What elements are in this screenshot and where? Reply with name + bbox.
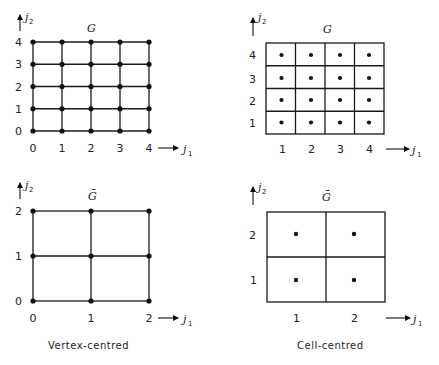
y-tick: 3: [249, 73, 256, 86]
x-axis-subscript: 1: [417, 151, 421, 159]
y-tick: 3: [15, 58, 22, 71]
y-axis-subscript: 2: [29, 186, 33, 194]
grid-title: Ḡ: [88, 189, 97, 203]
panel-vertex-coarse: j 2 Ḡ 2 1 0 0 1 2 j 1 Vertex-centred: [15, 179, 192, 351]
grid-lines: [266, 43, 384, 134]
y-axis-label: j: [255, 181, 262, 194]
grid-lines: [267, 212, 385, 302]
y-axis-subscript: 2: [262, 188, 266, 196]
x-tick: 0: [30, 142, 37, 155]
y-tick: 2: [249, 229, 256, 242]
x-tick: 2: [88, 142, 95, 155]
y-tick: 1: [15, 250, 22, 263]
y-tick: 1: [250, 274, 257, 287]
x-tick: 3: [337, 143, 344, 156]
x-tick: 1: [279, 143, 286, 156]
y-tick: 1: [249, 117, 256, 130]
x-tick: 1: [88, 312, 95, 325]
panel-cell-fine: j 2 G 4 3 2 1 1 2 3 4 j 1: [249, 11, 421, 159]
y-axis-label: j: [22, 179, 29, 192]
y-axis-subscript: 2: [262, 18, 266, 26]
x-axis-label: j: [180, 143, 187, 156]
y-tick: 4: [249, 49, 256, 62]
y-axis-subscript: 2: [29, 18, 33, 26]
x-tick: 2: [308, 143, 315, 156]
caption-vertex-centred: Vertex-centred: [48, 340, 129, 351]
x-axis-subscript: 1: [188, 150, 192, 158]
x-tick: 1: [293, 312, 300, 325]
x-axis-subscript: 1: [188, 320, 192, 328]
y-tick: 2: [249, 95, 256, 108]
x-tick: 2: [351, 312, 358, 325]
y-axis-label: j: [22, 11, 29, 24]
x-tick: 1: [59, 142, 66, 155]
x-axis-subscript: 1: [418, 320, 422, 328]
y-tick: 0: [15, 295, 22, 308]
x-tick: 4: [146, 142, 153, 155]
x-axis-label: j: [410, 313, 417, 326]
y-tick: 0: [15, 125, 22, 138]
panel-vertex-fine: j 2 G 4 3 2 1 0 0: [15, 11, 192, 158]
x-axis-label: j: [409, 144, 416, 157]
y-tick: 2: [15, 205, 22, 218]
y-tick: 2: [15, 81, 22, 94]
y-tick: 4: [15, 36, 22, 49]
x-tick: 3: [117, 142, 124, 155]
x-tick: 4: [366, 143, 373, 156]
caption-cell-centred: Cell-centred: [297, 340, 364, 351]
panel-cell-coarse: j 2 Ḡ 2 1 1 2 j 1 Cell-centred: [249, 181, 422, 351]
grid-title: G: [87, 22, 96, 35]
x-tick: 0: [30, 312, 37, 325]
x-axis-label: j: [180, 313, 187, 326]
y-axis-label: j: [255, 11, 262, 24]
grid-title: G: [323, 23, 332, 36]
grid-title: Ḡ: [322, 190, 331, 204]
grid-diagram: j 2 G 4 3 2 1 0 0: [0, 0, 439, 365]
x-tick: 2: [146, 312, 153, 325]
y-tick: 1: [15, 103, 22, 116]
